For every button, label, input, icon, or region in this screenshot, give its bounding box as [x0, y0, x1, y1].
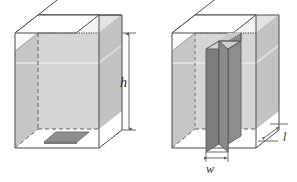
left-tank-liquid-right-face: [99, 15, 122, 129]
submerged-slab-broad-visible: [219, 41, 228, 152]
left-tank-bottom-plate-edge: [44, 142, 77, 144]
left-tank-rim-back: [38, 0, 61, 15]
right-tank-group: [172, 0, 279, 152]
dimension-w-group: [206, 152, 228, 162]
dimension-label-w: w: [206, 163, 214, 175]
tank-diagram-svg: [0, 0, 297, 182]
right-tank-rim-back: [195, 0, 218, 15]
left-tank-liquid-side-face: [15, 33, 38, 148]
left-tank-liquid-front-face: [38, 33, 99, 129]
dimension-label-l: l: [283, 131, 286, 143]
dimension-label-h: h: [120, 76, 127, 90]
submerged-slab-right-face: [228, 33, 241, 144]
submerged-slab-left-face: [206, 41, 219, 152]
right-tank-liquid-side-face: [172, 33, 195, 148]
right-tank-liquid-right-face: [256, 15, 279, 129]
left-tank-group: [15, 0, 122, 148]
left-tank-bottom-plate: [44, 132, 89, 142]
figure-container: h w l: [0, 0, 297, 182]
